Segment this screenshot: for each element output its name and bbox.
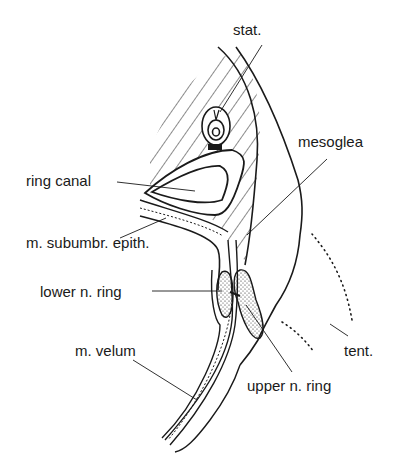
label-ring-canal: ring canal — [26, 173, 91, 188]
tentacle-outline — [282, 234, 352, 352]
nerve-rings — [217, 270, 263, 339]
label-m-velum: m. velum — [75, 343, 136, 358]
label-upper-n-ring: upper n. ring — [247, 378, 331, 393]
label-subumbr-epith: m. subumbr. epith. — [26, 235, 149, 250]
leader-m-velum — [133, 360, 197, 400]
label-mesoglea: mesoglea — [298, 134, 363, 149]
leader-tent — [330, 324, 348, 336]
label-stat: stat. — [233, 22, 261, 37]
leader-upper-n-ring — [246, 305, 292, 372]
diagram-drawing — [0, 0, 404, 465]
leader-mesoglea — [247, 159, 327, 235]
diagram-figure: stat. mesoglea ring canal m. subumbr. ep… — [0, 0, 404, 465]
label-lower-n-ring: lower n. ring — [40, 284, 122, 299]
label-tent: tent. — [344, 343, 373, 358]
